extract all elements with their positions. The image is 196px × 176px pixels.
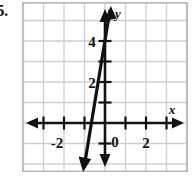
y-axis-label: y — [113, 6, 121, 21]
figure-page: 5. — [0, 0, 196, 176]
coordinate-graph-figure: -2 0 2 2 4 x y — [22, 2, 188, 172]
x-axis-label: x — [168, 102, 176, 117]
origin-label: 0 — [111, 134, 119, 150]
graph-svg: -2 0 2 2 4 x y — [22, 2, 188, 172]
y-tick-label-4: 4 — [88, 34, 96, 50]
x-tick-label-pos2: 2 — [142, 135, 150, 151]
problem-number: 5. — [0, 0, 16, 22]
x-tick-label-neg2: -2 — [51, 135, 64, 151]
y-tick-label-2: 2 — [88, 75, 96, 91]
